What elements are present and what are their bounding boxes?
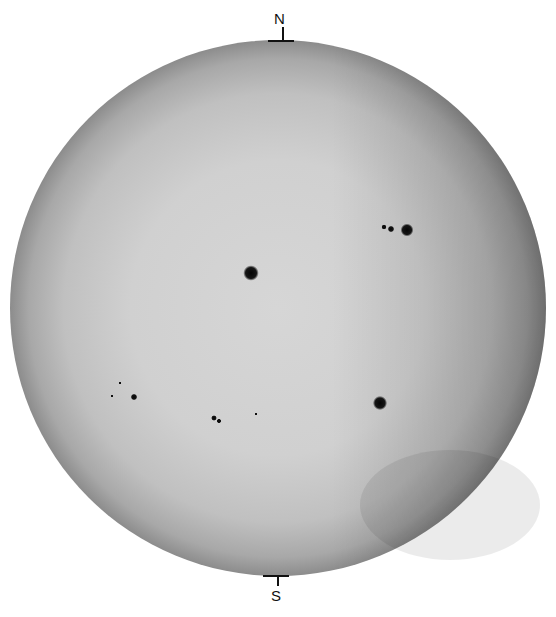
sunspot-southwest-spot xyxy=(373,396,387,410)
sunspot-southeast-faint-2 xyxy=(110,394,113,397)
sunspot-southeast-faint-1 xyxy=(118,381,121,384)
sunspot-southeast-spot xyxy=(131,394,138,401)
lower-right-shadow xyxy=(360,450,540,560)
south-tick-bar xyxy=(263,575,289,577)
sunspot-south-group-2 xyxy=(217,419,222,424)
north-tick-stem xyxy=(282,27,284,41)
solar-image: N S xyxy=(0,0,556,617)
sunspot-northwest-small-2 xyxy=(381,224,386,229)
solar-disk-graphic xyxy=(0,0,556,617)
sunspot-south-group-1 xyxy=(211,415,217,421)
north-label: N xyxy=(274,11,285,26)
north-tick-bar xyxy=(268,40,294,42)
south-tick-stem xyxy=(277,576,279,586)
sunspot-central-spot xyxy=(243,265,259,281)
sunspot-northwest-spot xyxy=(401,224,414,237)
sunspot-northwest-small-1 xyxy=(388,226,395,233)
south-label: S xyxy=(271,588,281,603)
sunspot-south-small xyxy=(254,412,257,415)
